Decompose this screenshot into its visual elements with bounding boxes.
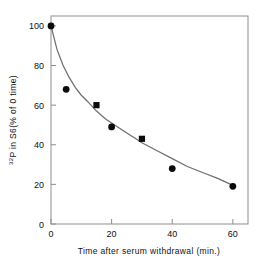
x-tick-label: 40 xyxy=(167,229,177,239)
circle-data-point xyxy=(229,183,236,190)
y-axis-title-group: 32P in S6(% of 0 time) xyxy=(8,75,18,165)
y-tick-label: 0 xyxy=(39,220,44,230)
circle-data-point xyxy=(63,86,70,93)
y-axis-title: 32P in S6(% of 0 time) xyxy=(8,75,18,165)
x-tick-label: 0 xyxy=(48,229,53,239)
figure-container: 0204060 020406080100 Time after serum wi… xyxy=(0,0,271,267)
y-tick-label: 80 xyxy=(34,61,44,71)
square-data-point xyxy=(139,136,145,142)
y-axis-tick-marks xyxy=(51,26,56,224)
x-axis-tick-labels: 0204060 xyxy=(48,229,237,239)
circle-data-point xyxy=(169,165,176,172)
y-axis-tick-labels: 020406080100 xyxy=(29,21,44,229)
circle-data-point xyxy=(48,23,55,30)
x-axis-title: Time after serum withdrawal (min.) xyxy=(78,246,220,256)
x-tick-label: 20 xyxy=(107,229,117,239)
plot-frame xyxy=(51,16,248,224)
y-tick-label: 60 xyxy=(34,101,44,111)
y-tick-label: 100 xyxy=(29,21,44,31)
chart-canvas: 0204060 020406080100 Time after serum wi… xyxy=(0,0,271,267)
data-point-markers xyxy=(48,23,237,190)
y-tick-label: 40 xyxy=(34,140,44,150)
y-tick-label: 20 xyxy=(34,180,44,190)
fit-curve xyxy=(51,26,233,185)
square-data-point xyxy=(93,102,99,108)
x-tick-label: 60 xyxy=(228,229,238,239)
circle-data-point xyxy=(108,124,115,131)
x-axis-tick-marks xyxy=(51,219,233,224)
